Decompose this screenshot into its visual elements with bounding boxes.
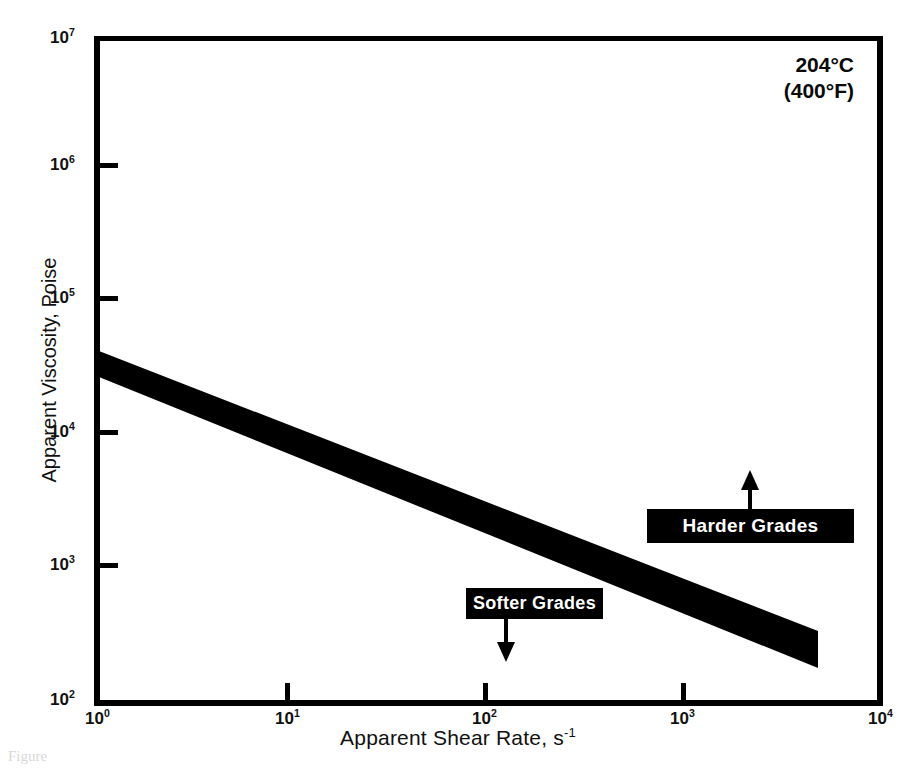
y-axis-title: Apparent Viscosity, Poise <box>38 100 61 640</box>
temperature-fahrenheit: (400°F) <box>784 78 854 104</box>
y-tick-1e3 <box>100 563 118 568</box>
x-axis-title: Apparent Shear Rate, s-1 <box>0 726 916 750</box>
x-tick-1e1 <box>285 683 290 701</box>
plot-top-border <box>94 36 883 41</box>
temperature-celsius: 204°C <box>784 52 854 78</box>
y-tick-1e4 <box>100 430 118 435</box>
y-tick-1e5 <box>100 296 118 301</box>
y-tick-1e6 <box>100 163 118 168</box>
harder-grades-label: Harder Grades <box>647 509 854 543</box>
y-tick-label-1e2: 102 <box>50 690 75 710</box>
x-tick-1e3 <box>681 683 686 701</box>
viscosity-vs-shear-rate-chart <box>0 0 916 779</box>
plot-right-border <box>877 36 883 706</box>
temperature-annotation: 204°C (400°F) <box>784 52 854 105</box>
softer-grades-label: Softer Grades <box>466 588 603 619</box>
y-tick-label-1e7: 107 <box>50 28 75 48</box>
page-scan-artifact: Figure <box>8 748 308 774</box>
x-axis-spine <box>94 700 883 706</box>
x-tick-1e2 <box>483 683 488 701</box>
